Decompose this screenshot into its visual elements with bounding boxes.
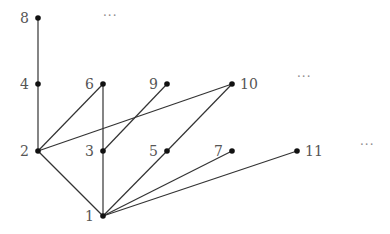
edge-5-1	[103, 151, 167, 216]
hasse-diagram: 1235711469108 ·········	[0, 0, 390, 234]
node-5	[164, 148, 170, 154]
node-label-3: 3	[85, 143, 94, 159]
ellipsis-0: ···	[103, 9, 117, 23]
edge-10-5	[167, 84, 232, 151]
node-label-2: 2	[20, 143, 29, 159]
node-7	[229, 148, 235, 154]
node-label-1: 1	[85, 208, 94, 224]
ellipses-layer: ·········	[103, 9, 374, 152]
node-10	[229, 81, 235, 87]
edge-11-1	[103, 151, 297, 216]
node-label-9: 9	[149, 76, 158, 92]
node-label-4: 4	[20, 76, 29, 92]
node-label-7: 7	[214, 143, 223, 159]
labels-layer: 1235711469108	[20, 10, 323, 224]
node-8	[35, 15, 41, 21]
node-label-11: 11	[305, 143, 323, 159]
node-1	[100, 213, 106, 219]
ellipsis-1: ···	[297, 70, 311, 84]
node-11	[294, 148, 300, 154]
node-6	[100, 81, 106, 87]
node-2	[35, 148, 41, 154]
node-3	[100, 148, 106, 154]
node-label-5: 5	[149, 143, 158, 159]
edge-7-1	[103, 151, 232, 216]
edge-10-2	[38, 84, 232, 151]
node-9	[164, 81, 170, 87]
edge-6-2	[38, 84, 103, 151]
edge-2-1	[38, 151, 103, 216]
node-label-8: 8	[20, 10, 29, 26]
node-label-10: 10	[240, 76, 258, 92]
node-label-6: 6	[85, 76, 94, 92]
node-4	[35, 81, 41, 87]
ellipsis-2: ···	[360, 138, 374, 152]
edges-layer	[38, 18, 297, 216]
